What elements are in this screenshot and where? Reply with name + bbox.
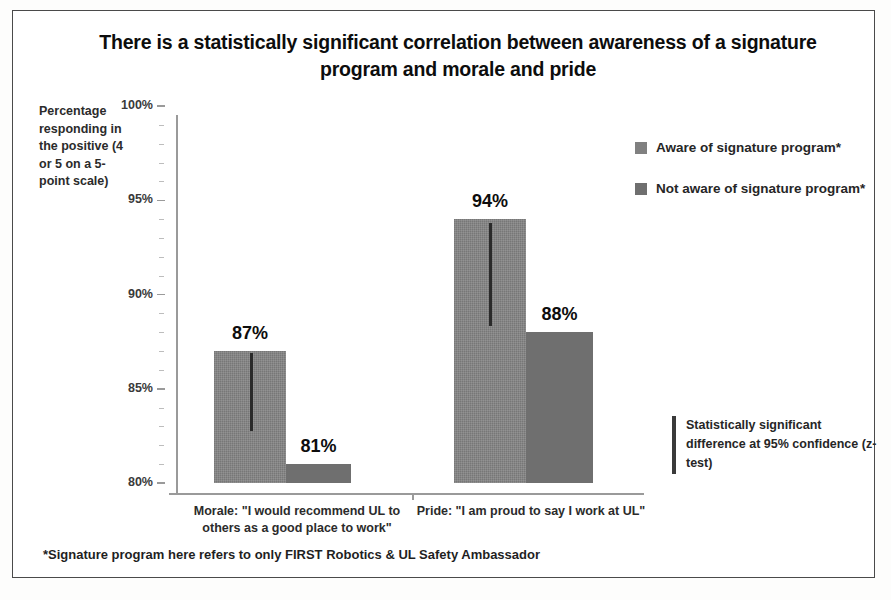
y-axis-tick-label: 95% [107, 192, 153, 206]
y-axis-tick-mark [157, 388, 165, 390]
legend-label-not-aware: Not aware of signature program* [656, 180, 865, 199]
y-axis-tick-label: 100% [107, 98, 153, 112]
y-axis-minor-tick [159, 125, 164, 126]
y-axis-minor-tick [159, 257, 164, 258]
y-axis-tick-mark [157, 482, 165, 484]
footnote: *Signature program here refers to only F… [43, 547, 540, 562]
slide-frame: There is a statistically significant cor… [12, 10, 875, 578]
slide-canvas: There is a statistically significant cor… [0, 0, 891, 600]
y-axis-minor-tick [159, 351, 164, 352]
y-axis-line [176, 115, 178, 495]
y-axis-tick-label: 90% [107, 287, 153, 301]
legend-item-aware[interactable]: Aware of signature program* [635, 139, 885, 158]
legend-swatch-icon [635, 142, 647, 154]
y-axis-minor-tick [159, 408, 164, 409]
y-axis-minor-tick [159, 313, 164, 314]
legend-label-aware: Aware of signature program* [656, 139, 841, 158]
y-axis-tick-mark [157, 294, 165, 296]
chart-legend: Aware of signature program* Not aware of… [635, 139, 885, 220]
error-bar [250, 353, 253, 431]
y-axis-minor-tick [159, 332, 164, 333]
annotation-rule-bar [672, 416, 676, 474]
y-axis-minor-tick [159, 181, 164, 182]
y-axis-minor-tick [159, 370, 164, 371]
y-axis-minor-tick [159, 464, 164, 465]
y-axis-minor-tick [159, 163, 164, 164]
legend-item-not-aware[interactable]: Not aware of signature program* [635, 180, 885, 199]
annotation-text: Statistically significant difference at … [686, 416, 882, 474]
bar-value-label: 94% [455, 191, 525, 212]
error-bar [489, 223, 492, 326]
y-axis-minor-tick [159, 144, 164, 145]
bar[interactable] [526, 332, 593, 483]
significance-annotation: Statistically significant difference at … [672, 416, 882, 474]
y-axis-minor-tick [159, 445, 164, 446]
y-axis-tick-mark [157, 200, 165, 202]
category-label-pride: Pride: "I am proud to say I work at UL" [415, 503, 647, 520]
bar[interactable] [286, 464, 351, 483]
y-axis-tick-mark [157, 105, 165, 107]
y-axis-caption: Percentage responding in the positive (4… [39, 103, 125, 191]
y-axis-tick-label: 85% [107, 381, 153, 395]
category-label-morale: Morale: "I would recommend UL to others … [181, 503, 413, 537]
y-axis-minor-tick [159, 238, 164, 239]
y-axis-origin-tick [169, 493, 177, 495]
y-axis-minor-tick [159, 219, 164, 220]
y-axis-tick-label: 80% [107, 475, 153, 489]
chart-title: There is a statistically significant cor… [73, 29, 843, 83]
bar-value-label: 87% [215, 323, 285, 344]
bar-value-label: 81% [284, 436, 354, 457]
category-divider-tick [412, 493, 414, 500]
bar-value-label: 88% [525, 304, 595, 325]
y-axis-minor-tick [159, 426, 164, 427]
y-axis-minor-tick [159, 276, 164, 277]
legend-swatch-icon [635, 183, 647, 195]
x-axis-line [176, 493, 644, 495]
